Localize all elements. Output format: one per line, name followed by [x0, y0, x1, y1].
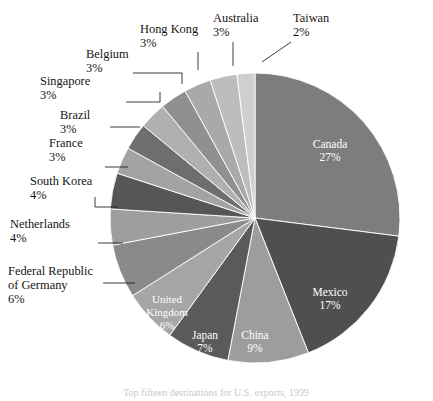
figure-caption: Top fifteen destinations for U.S. export… [123, 387, 309, 398]
slice-callout-taiwan: Taiwan2% [293, 11, 329, 39]
slice-label-line: Kingdom [146, 306, 188, 318]
slice-callout-line: France [49, 136, 83, 150]
slice-callout-hong-kong: Hong Kong3% [140, 22, 198, 50]
slice-callout-line: 3% [213, 25, 230, 39]
slice-label-line: 27% [319, 151, 341, 163]
leader-line-singapore [126, 92, 160, 102]
slice-callout-line: Australia [213, 11, 259, 25]
slice-label-line: 6% [160, 319, 175, 331]
slice-callout-germany: Federal Republicof Germany6% [8, 264, 93, 306]
slice-callout-line: 3% [49, 150, 66, 164]
slice-callout-line: South Korea [30, 174, 93, 188]
slice-callout-line: Singapore [40, 74, 91, 88]
pie-chart-figure: Canada27%Mexico17%China9%Japan7%UnitedKi… [0, 0, 433, 401]
slice-callout-line: Hong Kong [140, 22, 198, 36]
slice-label-line: 7% [197, 342, 213, 354]
slice-callout-australia: Australia3% [213, 11, 259, 39]
slice-callout-netherlands: Netherlands4% [10, 217, 70, 245]
slice-callout-line: Netherlands [10, 217, 70, 231]
slice-callout-line: 3% [86, 61, 103, 75]
slice-callout-singapore: Singapore3% [40, 74, 91, 102]
slice-label-line: 17% [319, 299, 341, 311]
slice-callout-line: Brazil [60, 108, 91, 122]
slice-callout-line: 6% [8, 292, 25, 306]
slice-callout-line: of Germany [8, 278, 68, 292]
slice-callout-line: Taiwan [293, 11, 329, 25]
slice-callout-line: 3% [40, 88, 57, 102]
slice-callout-line: 4% [10, 231, 27, 245]
slice-callout-line: Belgium [86, 47, 129, 61]
slice-callout-line: 2% [293, 25, 310, 39]
slice-label-line: Mexico [312, 286, 347, 298]
slice-callout-line: 4% [30, 188, 47, 202]
slice-callout-belgium: Belgium3% [86, 47, 129, 75]
slice-label-line: Japan [192, 329, 218, 342]
slice-callout-brazil: Brazil3% [60, 108, 91, 136]
slice-label-line: Canada [313, 138, 347, 150]
slice-callout-line: 3% [140, 36, 157, 50]
slice-label-line: 9% [247, 342, 263, 354]
slice-label-line: China [241, 329, 268, 341]
leader-line-belgium [133, 73, 182, 84]
slice-label-line: United [152, 293, 182, 305]
slice-callout-france: France3% [49, 136, 83, 164]
slice-callout-south-korea: South Korea4% [30, 174, 93, 202]
leader-line-taiwan [262, 42, 291, 62]
pie-slices-group [110, 73, 400, 363]
pie-chart-canvas: Canada27%Mexico17%China9%Japan7%UnitedKi… [0, 0, 433, 401]
slice-callout-line: 3% [60, 122, 77, 136]
slice-callout-line: Federal Republic [8, 264, 93, 278]
